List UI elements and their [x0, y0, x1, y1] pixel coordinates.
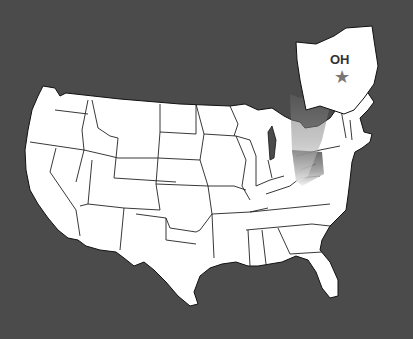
map-canvas: OH ★	[0, 0, 413, 339]
ohio-label: OH	[330, 52, 350, 67]
us-map	[0, 0, 413, 339]
star-icon: ★	[334, 68, 350, 86]
